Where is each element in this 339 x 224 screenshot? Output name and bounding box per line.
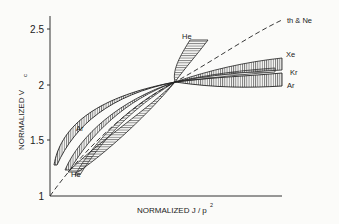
svg-text:NORMALIZED V: NORMALIZED V (17, 89, 26, 150)
ytick-1.5: 1.5 (30, 135, 44, 146)
label-ar-left: Ar (76, 124, 84, 133)
svg-text:c: c (22, 74, 28, 77)
chart: 2.5 2 1.5 1 NORMALIZED V c NORMALIZED J … (0, 0, 339, 224)
svg-text:NORMALIZED J / p: NORMALIZED J / p (137, 206, 207, 215)
label-th-ne: th & Ne (287, 16, 312, 25)
x-axis-label: NORMALIZED J / p 2 (137, 202, 213, 215)
ytick-2.5: 2.5 (30, 24, 44, 35)
y-axis-label: NORMALIZED V c (17, 74, 28, 150)
ytick-2: 2 (38, 80, 44, 91)
ytick-1: 1 (38, 191, 44, 202)
theory-dashed-line (50, 20, 282, 196)
label-xe: Xe (286, 50, 295, 59)
label-he-bottom: He (71, 170, 81, 179)
label-ar-right: Ar (287, 81, 295, 90)
band-ar (54, 73, 282, 165)
label-he-top: He (182, 32, 192, 41)
label-kr: Kr (290, 68, 298, 77)
svg-text:2: 2 (210, 202, 213, 208)
